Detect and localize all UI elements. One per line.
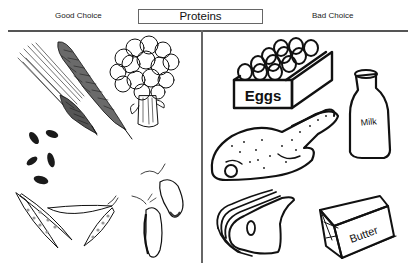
- pea-pods-icon: [16, 193, 118, 248]
- food-illustrations: Eggs Milk: [0, 0, 418, 270]
- meat-slices-icon: [217, 190, 294, 256]
- eggs-label: Eggs: [245, 87, 282, 104]
- beans-icon: [132, 164, 183, 257]
- butter-icon: Butter: [320, 196, 396, 258]
- seeds-icon: [25, 128, 59, 185]
- egg-carton-icon: Eggs: [234, 38, 332, 108]
- chicken-icon: [212, 110, 338, 180]
- butter-label: Butter: [348, 223, 380, 244]
- broccoli-icon: [110, 36, 179, 127]
- milk-bottle-icon: Milk: [350, 70, 390, 158]
- milk-label: Milk: [360, 116, 377, 128]
- wheat-icon: [58, 42, 132, 139]
